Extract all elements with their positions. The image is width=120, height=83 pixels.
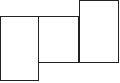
rect-left xyxy=(0,16,39,81)
rect-right xyxy=(79,0,119,63)
rect-middle xyxy=(38,16,79,63)
